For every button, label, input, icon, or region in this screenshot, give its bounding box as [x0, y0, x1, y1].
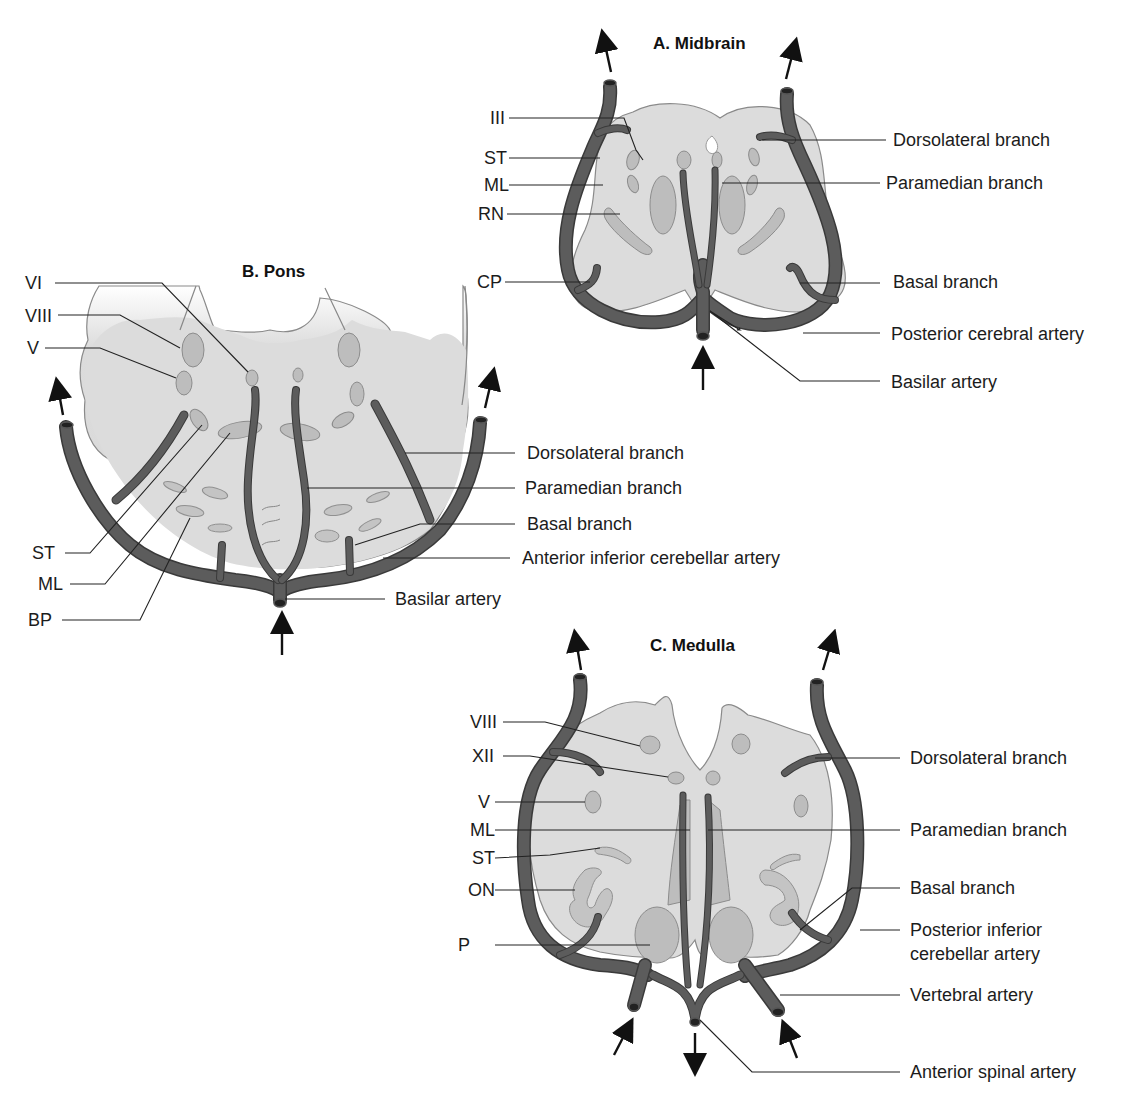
label-posterior-cerebral-artery: Posterior cerebral artery [891, 324, 1084, 344]
label-iii: III [490, 108, 505, 128]
panel-title-pons: B. Pons [242, 262, 305, 282]
iii-nucleus-left [677, 151, 691, 169]
arrow-icon [58, 388, 63, 415]
midbrain-section [505, 40, 886, 390]
label-ml: ML [484, 175, 509, 195]
label-ml: ML [470, 820, 495, 840]
label-on: ON [468, 880, 495, 900]
iii-nucleus-right [712, 152, 722, 168]
label-dorsolateral-branch: Dorsolateral branch [910, 748, 1067, 768]
panel-title-midbrain: A. Midbrain [653, 34, 746, 54]
red-nucleus-left [650, 176, 676, 234]
arrow-icon [485, 378, 492, 408]
label-st: ST [484, 148, 507, 168]
arrow-icon [786, 48, 794, 79]
medulla-section [495, 640, 900, 1072]
brainstem-arterial-supply-figure: A. Midbrain B. Pons C. Medulla III ST ML… [0, 0, 1123, 1106]
vi-nucleus-left [246, 370, 258, 386]
label-basal-branch: Basal branch [910, 878, 1015, 898]
label-anterior-spinal-artery: Anterior spinal artery [910, 1062, 1076, 1082]
arrow-icon [604, 40, 611, 72]
label-posterior-inferior-line1: Posterior inferior [910, 920, 1042, 940]
arrow-icon [614, 1028, 628, 1055]
panel-title-medulla: C. Medulla [650, 636, 735, 656]
label-basal-branch: Basal branch [893, 272, 998, 292]
label-st: ST [32, 543, 55, 563]
viii-nucleus-left [182, 333, 204, 367]
arrow-icon [786, 1030, 797, 1058]
label-basal-branch: Basal branch [527, 514, 632, 534]
label-basilar-artery: Basilar artery [891, 372, 997, 392]
xii-nucleus-left [668, 772, 684, 784]
arrow-icon [576, 640, 581, 670]
label-bp: BP [28, 610, 52, 630]
red-nucleus-right [719, 176, 745, 234]
label-cp: CP [477, 272, 502, 292]
label-vertebral-artery: Vertebral artery [910, 985, 1033, 1005]
label-xii: XII [472, 746, 494, 766]
v-nucleus-left [176, 371, 192, 395]
label-dorsolateral-branch: Dorsolateral branch [527, 443, 684, 463]
label-paramedian-branch: Paramedian branch [886, 173, 1043, 193]
label-rn: RN [478, 204, 504, 224]
label-vi: VI [25, 273, 42, 293]
label-v: V [478, 792, 490, 812]
label-st: ST [472, 848, 495, 868]
label-p: P [458, 935, 470, 955]
viii-nucleus-left [640, 736, 660, 754]
label-basilar-artery: Basilar artery [395, 589, 501, 609]
label-viii: VIII [470, 712, 497, 732]
label-paramedian-branch: Paramedian branch [525, 478, 682, 498]
label-ml: ML [38, 574, 63, 594]
pyramid-left [635, 907, 679, 963]
label-paramedian-branch: Paramedian branch [910, 820, 1067, 840]
arrow-icon [823, 640, 832, 670]
v-nucleus-left [585, 791, 601, 813]
label-dorsolateral-branch: Dorsolateral branch [893, 130, 1050, 150]
label-anterior-inferior-cerebellar-artery: Anterior inferior cerebellar artery [522, 548, 780, 568]
label-viii: VIII [25, 306, 52, 326]
label-v: V [27, 338, 39, 358]
label-posterior-inferior-line2: cerebellar artery [910, 944, 1040, 964]
